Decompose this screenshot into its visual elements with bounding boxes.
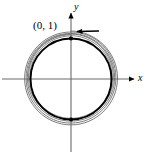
point-label-0-1: (0, 1) — [33, 19, 57, 31]
point-marker-0-1 — [69, 36, 73, 40]
point-marker-bottom — [69, 118, 73, 122]
spiral-limit-cycle-figure: (0, 1) x y — [0, 0, 148, 156]
plot-canvas — [0, 0, 148, 156]
direction-arrow — [77, 31, 99, 32]
x-axis-label: x — [138, 72, 142, 83]
y-axis-label: y — [74, 1, 78, 12]
